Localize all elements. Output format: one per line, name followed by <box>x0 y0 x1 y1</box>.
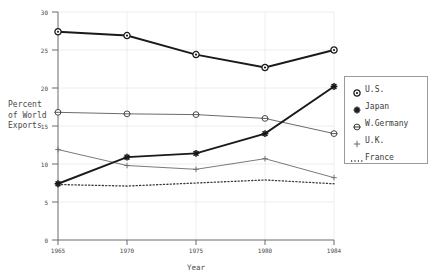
circle-dot-icon <box>349 84 365 96</box>
y-tick-label-0: 0 <box>44 237 48 244</box>
y-axis-title: Percent of World Exports <box>8 100 64 132</box>
y-tick-label-10: 10 <box>41 161 49 168</box>
legend-item-wgermany[interactable]: W.Germany <box>349 116 408 132</box>
y-tick-label-30: 30 <box>41 9 49 16</box>
legend-label-japan: Japan <box>365 101 389 113</box>
legend-item-us[interactable]: U.S. <box>349 82 384 98</box>
dotted-line-icon <box>349 152 365 164</box>
x-tick-label-1975: 1975 <box>189 247 204 254</box>
legend-item-japan[interactable]: Japan <box>349 99 389 115</box>
circle-cross-icon <box>349 118 365 130</box>
grid-lines <box>58 12 334 240</box>
legend-label-france: France <box>365 152 394 164</box>
plus-icon <box>349 135 365 147</box>
star-icon <box>349 101 365 113</box>
y-axis-title-line-2: of World <box>8 111 47 120</box>
y-tick-label-25: 25 <box>41 47 49 54</box>
legend-label-wgermany: W.Germany <box>365 118 408 130</box>
x-tick-label-1984: 1984 <box>327 247 342 254</box>
legend-item-france[interactable]: France <box>349 150 394 166</box>
x-axis-ticks <box>58 240 334 245</box>
y-axis-title-line-1: Percent <box>8 100 42 109</box>
legend-label-uk: U.K. <box>365 135 384 147</box>
x-tick-label-1980: 1980 <box>258 247 273 254</box>
y-tick-label-5: 5 <box>44 199 48 206</box>
y-tick-label-20: 20 <box>41 85 49 92</box>
x-tick-label-1965: 1965 <box>51 247 66 254</box>
y-axis-title-line-3: Exports <box>8 121 42 130</box>
x-axis-title: Year <box>187 263 206 272</box>
legend-label-us: U.S. <box>365 84 384 96</box>
legend-item-uk[interactable]: U.K. <box>349 133 384 149</box>
chart-legend: U.S. Japan W.Germany U.K. France <box>344 76 428 164</box>
chart-container: 30 25 20 15 10 5 0 1965 1970 1975 1980 1… <box>0 0 432 278</box>
x-tick-label-1970: 1970 <box>120 247 135 254</box>
